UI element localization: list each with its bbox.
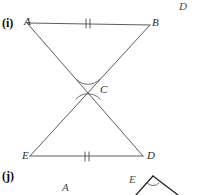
- tick-marks-AB: [86, 19, 90, 28]
- next-figure-vertex-label-a: A: [62, 182, 69, 193]
- vertex-label-b: B: [152, 17, 159, 28]
- part-label-j: (j): [2, 170, 14, 182]
- next-figure-right-leg: [153, 176, 178, 195]
- segment-AB: [27, 23, 150, 25]
- segment-BE: [30, 25, 150, 156]
- geometry-diagram: [0, 0, 198, 195]
- vertex-label-d: D: [147, 150, 155, 161]
- diagram-strokes: [27, 19, 178, 195]
- vertex-label-e: E: [22, 150, 29, 161]
- stray-vertex-label-d: D: [179, 1, 187, 12]
- vertex-label-c: C: [100, 84, 107, 95]
- next-figure-angle-arc: [147, 183, 159, 186]
- figure-page: (i) (j) A B C E D D A E: [0, 0, 198, 195]
- angle-arc-below-C: [76, 94, 100, 99]
- vertex-label-a: A: [24, 16, 31, 27]
- part-label-i: (i): [2, 17, 13, 29]
- next-figure-vertex-label-e: E: [129, 174, 136, 185]
- next-figure-partial: [136, 176, 178, 195]
- segment-AD: [27, 23, 143, 156]
- tick-marks-ED: [85, 152, 89, 161]
